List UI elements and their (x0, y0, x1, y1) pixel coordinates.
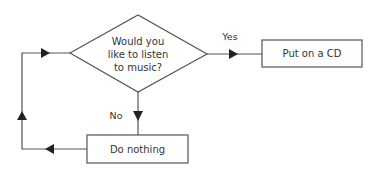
yes-action-text: Put on a CD (283, 48, 342, 59)
down-arrow-icon (133, 111, 143, 121)
no-edge: No (110, 92, 143, 135)
decision-node: Would you like to listen to music? (70, 15, 207, 92)
loop-edge (17, 48, 87, 154)
loop-connector-line (22, 53, 87, 149)
decision-text-line-2: like to listen (108, 49, 169, 60)
right-arrow-icon (229, 49, 238, 59)
yes-label: Yes (221, 31, 237, 42)
no-action-text: Do nothing (110, 144, 165, 155)
no-action-node: Do nothing (87, 135, 188, 163)
decision-text-line-3: to music? (114, 62, 162, 73)
decision-text-line-1: Would you (112, 36, 164, 47)
yes-action-node: Put on a CD (262, 40, 362, 67)
left-arrow-icon (45, 144, 54, 154)
yes-edge: Yes (207, 31, 262, 59)
up-arrow-icon (17, 111, 27, 120)
no-label: No (110, 110, 123, 121)
flowchart-diagram: Would you like to listen to music? Yes P… (0, 0, 381, 170)
right-arrow-icon (41, 48, 50, 58)
